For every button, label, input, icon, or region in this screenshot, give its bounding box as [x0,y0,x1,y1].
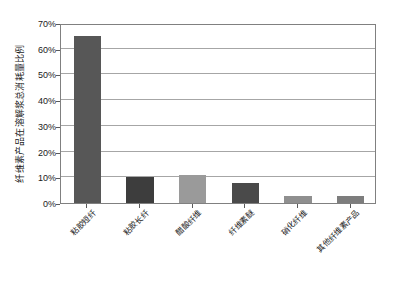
bar [126,177,153,203]
plot-area [60,24,376,204]
y-axis-tick-label: 0% [43,200,56,209]
x-axis-tick-mark [139,204,140,208]
bars-layer [61,25,375,203]
y-axis-tick-label: 40% [38,97,56,106]
x-axis-tick-mark [244,204,245,208]
x-axis-tick-mark [350,204,351,208]
x-axis-category-labels: 粘胶短纤粘胶长纤醋酸纤维纤维素醚硝化纤维其他纤维素产品 [60,209,390,287]
y-axis-tick-label: 20% [38,148,56,157]
x-axis-category-label: 其他纤维素产品 [147,209,362,290]
y-axis-tick-label: 70% [38,20,56,29]
x-axis-category-label: 粘胶短纤 [69,209,98,238]
y-axis-title-text: 纤维素产品在溶解浆总消耗量比例 [16,44,25,182]
bar-chart: 纤维素产品在溶解浆总消耗量比例 0%10%20%30%40%50%60%70% … [0,0,398,290]
bar [284,196,311,203]
x-axis-tick-mark [297,204,298,208]
bar [74,36,101,203]
x-axis-tick-mark [86,204,87,208]
bar [179,175,206,203]
y-axis-tick-labels: 0%10%20%30%40%50%60%70% [28,24,58,204]
y-axis-tick-label: 10% [38,174,56,183]
bar [337,196,364,203]
bar [232,183,259,203]
x-axis-tick-mark [192,204,193,208]
y-axis-tick-label: 50% [38,71,56,80]
y-axis-tick-label: 60% [38,45,56,54]
y-axis-tick-label: 30% [38,122,56,131]
